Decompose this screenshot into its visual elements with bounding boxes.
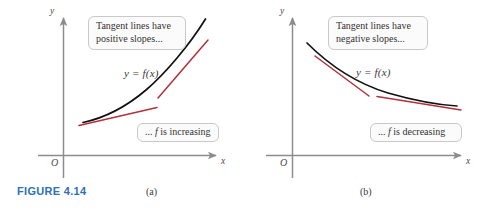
panel-b-callout-decreasing-prefix: ... (378, 126, 388, 137)
panel-a-y-axis-label: y (50, 6, 54, 17)
panel-a-callout-tangent-slopes: Tangent lines have positive slopes... (88, 16, 186, 50)
panel-b-tag: (b) (360, 186, 372, 198)
figure-4-14: y x O y = f(x) Tangent lines have positi… (0, 0, 477, 217)
panel-b-y-axis-label: y (280, 6, 284, 17)
panel-b-x-axis-label: x (466, 156, 470, 167)
panel-b-origin-label: O (280, 157, 287, 169)
panel-b-callout-tangent-slopes: Tangent lines have negative slopes... (328, 16, 428, 50)
panel-b-callout-line-2: negative slopes... (336, 33, 421, 46)
panel-a-callout-line-2: positive slopes... (96, 33, 179, 46)
panel-a-tag: (a) (146, 186, 157, 198)
panel-a-x-axis-label: x (221, 156, 225, 167)
panel-a-callout-increasing-suffix: is increasing (158, 126, 211, 137)
panel-b-callout-decreasing: ... f is decreasing (370, 123, 462, 142)
panel-b-curve-label: y = f(x) (356, 66, 391, 79)
panel-b-tangent-line-2 (377, 97, 461, 111)
panel-a-origin-label: O (51, 157, 58, 169)
figure-caption: FIGURE 4.14 (17, 185, 86, 197)
panel-b-callout-decreasing-suffix: is decreasing (391, 126, 445, 137)
panel-a-callout-increasing-prefix: ... (145, 126, 155, 137)
panel-b-callout-line-1: Tangent lines have (336, 20, 421, 33)
panel-a-curve-label: y = f(x) (124, 67, 159, 80)
panel-a-callout-line-1: Tangent lines have (96, 20, 179, 33)
panel-a-callout-increasing: ... f is increasing (137, 123, 219, 142)
